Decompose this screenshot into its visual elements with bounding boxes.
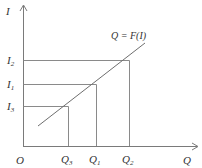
y-level-label-i3: I3 — [6, 100, 15, 114]
diagram-canvas: Q = F(I) I Q O I2 I1 I3 Q3 Q1 Q2 — [0, 0, 202, 168]
x-axis-label: Q — [183, 154, 191, 166]
origin-label: O — [16, 154, 24, 166]
function-label: Q = F(I) — [111, 30, 147, 42]
y-level-label-i1: I1 — [6, 78, 14, 92]
y-level-label-i2: I2 — [6, 54, 15, 68]
y-axis-label: I — [5, 5, 11, 17]
x-level-label-q3: Q3 — [61, 153, 73, 167]
x-level-label-q2: Q2 — [122, 153, 134, 167]
x-level-label-q1: Q1 — [89, 153, 100, 167]
